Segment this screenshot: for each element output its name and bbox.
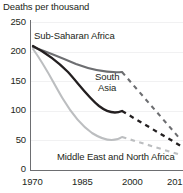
- chart-container: Deaths per thousand 250 200 150 100 50 0…: [0, 0, 183, 193]
- x-tick-2015: 201: [167, 177, 183, 187]
- series-label-south-asia-line1: South: [95, 71, 119, 82]
- series-label-middle-east-and-north-africa: Middle East and North Africa: [57, 152, 175, 163]
- series-label-sub-saharan-africa: Sub-Saharan Africa: [34, 31, 115, 42]
- chart-plot-area: [0, 0, 183, 193]
- y-tick-200: 200: [2, 46, 26, 56]
- series-label-south-asia: South Asia: [95, 72, 119, 93]
- series-line-middle-east-and-north-africa: [33, 49, 122, 140]
- x-tick-1970: 1970: [22, 177, 43, 187]
- x-tick-1985: 1985: [72, 177, 93, 187]
- y-tick-100: 100: [2, 105, 26, 115]
- y-tick-250: 250: [2, 17, 26, 27]
- series-dashed-sub-saharan-africa: [122, 72, 181, 140]
- series-label-south-asia-line2: Asia: [98, 82, 116, 93]
- y-tick-50: 50: [2, 135, 26, 145]
- x-tick-2000: 2000: [122, 177, 143, 187]
- y-tick-150: 150: [2, 76, 26, 86]
- y-tick-0: 0: [2, 164, 26, 174]
